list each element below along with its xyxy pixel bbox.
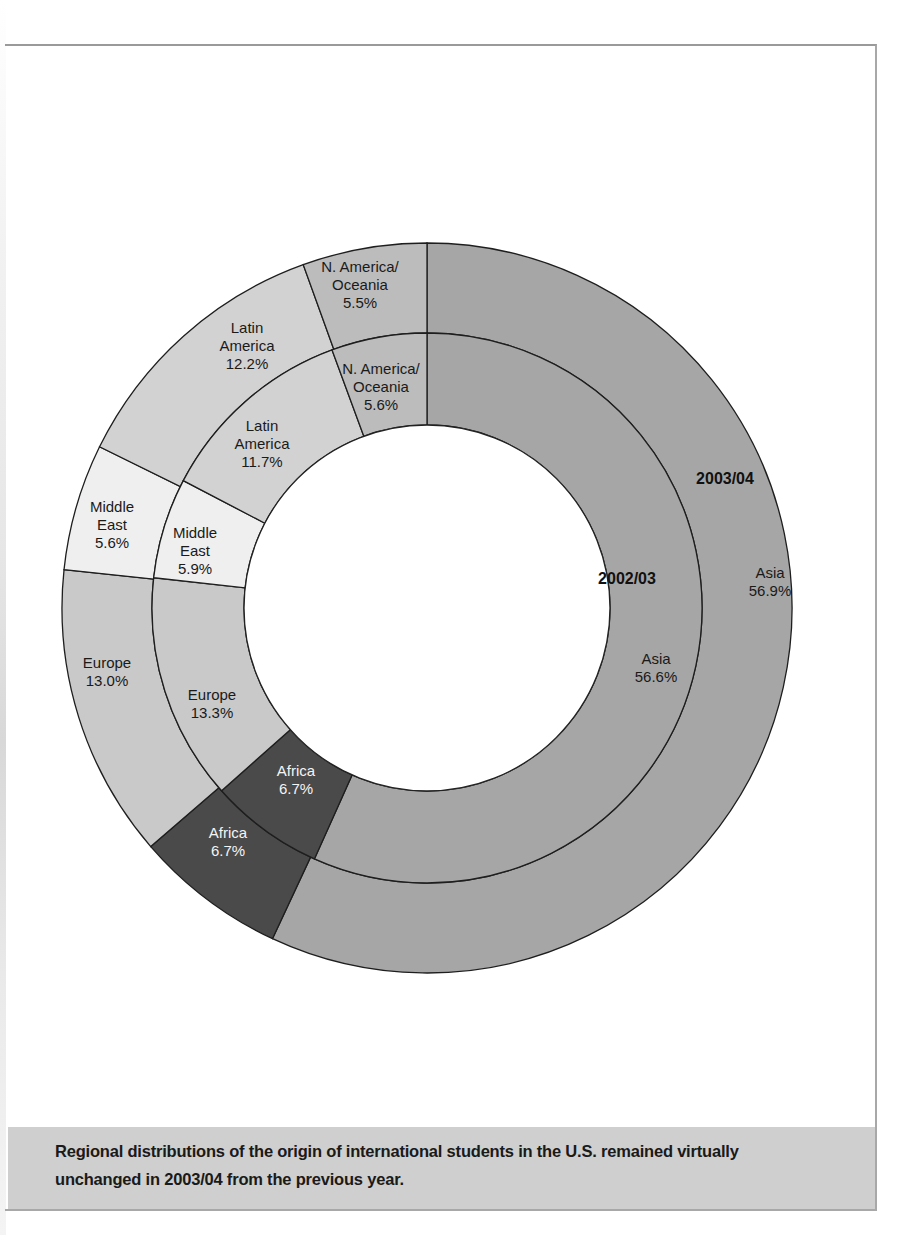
caption-box: Regional distributions of the origin of … <box>8 1127 875 1209</box>
year-label-2002-03: 2002/03 <box>598 570 656 587</box>
slice-label-africa-2003-04: Africa6.7% <box>209 824 248 859</box>
slice-label-africa-2002-03: Africa6.7% <box>277 762 316 797</box>
slice-label-europe-2003-04: Europe13.0% <box>83 654 131 689</box>
donut-hole <box>244 425 610 791</box>
nested-donut-chart: Asia56.9%Africa6.7%Europe13.0%MiddleEast… <box>0 0 915 1235</box>
year-label-2003-04: 2003/04 <box>696 470 754 487</box>
caption-text: Regional distributions of the origin of … <box>55 1137 815 1193</box>
slice-label-europe-2002-03: Europe13.3% <box>188 686 236 721</box>
